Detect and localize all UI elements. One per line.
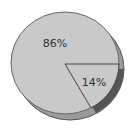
pie-chart-svg: 86% 14% <box>0 0 137 136</box>
pie-chart: 86% 14% <box>0 0 137 136</box>
label-14: 14% <box>82 76 106 89</box>
label-86: 86% <box>43 37 67 50</box>
